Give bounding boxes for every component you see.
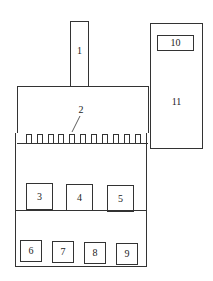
label-8: 8 <box>84 248 106 258</box>
tooth <box>91 134 97 143</box>
label-3: 3 <box>26 192 53 202</box>
label-10: 10 <box>157 38 194 48</box>
tooth <box>48 134 54 143</box>
tooth <box>80 134 86 143</box>
tooth <box>26 134 32 143</box>
tooth <box>69 134 75 143</box>
tooth <box>102 134 108 143</box>
tooth <box>135 134 141 143</box>
divider-upper <box>17 143 148 144</box>
divider-lower <box>16 210 147 211</box>
label-6: 6 <box>20 246 42 256</box>
tooth <box>113 134 119 143</box>
label-11: 11 <box>150 97 203 107</box>
tooth <box>124 134 130 143</box>
tooth <box>37 134 43 143</box>
label-4: 4 <box>66 193 93 203</box>
tooth <box>58 134 64 143</box>
label-9: 9 <box>116 249 138 259</box>
label-5: 5 <box>107 194 134 204</box>
label-7: 7 <box>52 247 74 257</box>
